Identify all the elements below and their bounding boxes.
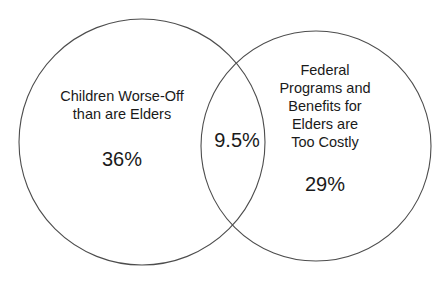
intersection-value: 9.5% — [203, 129, 271, 152]
right-set-label-line-1: Federal — [266, 62, 384, 80]
left-set-label-line-2: than are Elders — [32, 106, 212, 124]
right-set-label-line-4: Elders are — [266, 116, 384, 134]
right-set-label-line-5: Too Costly — [266, 134, 384, 152]
right-set-label: Federal Programs and Benefits for Elders… — [266, 62, 384, 152]
right-set-value: 29% — [266, 173, 384, 196]
left-set-value: 36% — [52, 148, 192, 171]
right-set-label-line-2: Programs and — [266, 80, 384, 98]
left-set-label-line-1: Children Worse-Off — [32, 88, 212, 106]
right-set-label-line-3: Benefits for — [266, 98, 384, 116]
left-set-label: Children Worse-Off than are Elders — [32, 88, 212, 124]
venn-diagram: Children Worse-Off than are Elders Feder… — [0, 0, 448, 289]
